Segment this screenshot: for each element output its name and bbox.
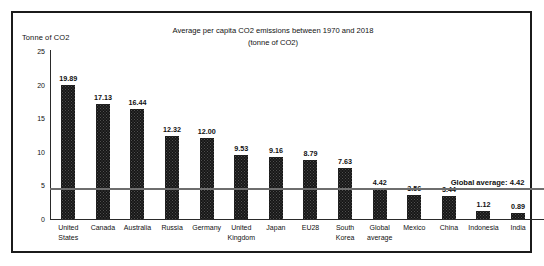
x-axis-category-label: EU28 <box>293 223 327 233</box>
y-axis-tick-label: 15 <box>31 115 45 122</box>
y-axis-tick-label: 25 <box>31 48 45 55</box>
chart-title-line-1: Average per capita CO2 emissions between… <box>123 25 423 37</box>
chart-title: Average per capita CO2 emissions between… <box>123 25 423 48</box>
x-axis-category-label: South Korea <box>328 223 362 242</box>
x-axis-category-label: China <box>432 223 466 233</box>
y-axis-title: Tonne of CO2 <box>22 33 69 42</box>
global-average-label: Global average: 4.42 <box>451 178 525 187</box>
bar-group[interactable]: 7.63South Korea <box>328 51 363 219</box>
bar-group[interactable]: 9.16Japan <box>259 51 294 219</box>
y-axis-tick-label: 10 <box>31 148 45 155</box>
global-average-line <box>50 188 544 190</box>
bar[interactable] <box>511 213 525 219</box>
bar-value-label: 16.44 <box>128 98 146 107</box>
bar-value-label: 1.12 <box>476 200 490 209</box>
bar-value-label: 12.00 <box>198 127 216 136</box>
x-axis-category-label: Global average <box>363 223 397 242</box>
bar-group[interactable]: 9.53United Kingdom <box>224 51 259 219</box>
bars-layer: 19.89United States17.13Canada16.44Austra… <box>51 51 526 219</box>
y-axis-tick-label: 20 <box>31 81 45 88</box>
bar-group[interactable]: 17.13Canada <box>86 51 121 219</box>
bar[interactable] <box>234 155 248 219</box>
bar[interactable] <box>407 195 421 219</box>
bar[interactable] <box>61 85 75 219</box>
bar-group[interactable]: 16.44Australia <box>120 51 155 219</box>
bar-group[interactable]: 12.00Germany <box>189 51 224 219</box>
bar-value-label: 4.42 <box>373 178 387 187</box>
bar-value-label: 17.13 <box>94 93 112 102</box>
bar-value-label: 9.53 <box>234 144 248 153</box>
x-axis-category-label: Russia <box>155 223 189 233</box>
x-axis-category-label: United Kingdom <box>224 223 258 242</box>
bar-group[interactable]: 3.56Mexico <box>397 51 432 219</box>
x-axis-category-label: Indonesia <box>466 223 500 233</box>
x-axis-category-label: Canada <box>86 223 120 233</box>
chart-title-line-2: (tonne of CO2) <box>123 37 423 49</box>
bar-group[interactable]: 0.89India <box>501 51 536 219</box>
bar[interactable] <box>200 138 214 219</box>
bar[interactable] <box>442 196 456 219</box>
x-axis-line <box>50 219 544 220</box>
bar-value-label: 8.79 <box>303 149 317 158</box>
bar-group[interactable]: 1.12Indonesia <box>466 51 501 219</box>
y-axis-tick-label: 0 <box>31 216 45 223</box>
plot-area: 0510152025 19.89United States17.13Canada… <box>31 51 526 219</box>
bar-group[interactable]: 19.89United States <box>51 51 86 219</box>
bar-value-label: 19.89 <box>59 74 77 83</box>
bar[interactable] <box>476 211 490 219</box>
chart-container: Tonne of CO2 Average per capita CO2 emis… <box>11 11 532 253</box>
bar-group[interactable]: 3.44China <box>432 51 467 219</box>
bar[interactable] <box>373 189 387 219</box>
bar[interactable] <box>130 109 144 219</box>
bar-group[interactable]: 8.79EU28 <box>293 51 328 219</box>
bar[interactable] <box>96 104 110 219</box>
bar[interactable] <box>165 136 179 219</box>
bar[interactable] <box>338 168 352 219</box>
bar-value-label: 7.63 <box>338 157 352 166</box>
x-axis-category-label: Japan <box>259 223 293 233</box>
bar-value-label: 12.32 <box>163 125 181 134</box>
bar-value-label: 9.16 <box>269 146 283 155</box>
y-axis-tick-label: 5 <box>31 182 45 189</box>
bar-group[interactable]: 12.32Russia <box>155 51 190 219</box>
bar-value-label: 0.89 <box>511 202 525 211</box>
x-axis-category-label: United States <box>51 223 85 242</box>
bar-group[interactable]: 4.42Global average <box>362 51 397 219</box>
x-axis-category-label: Mexico <box>397 223 431 233</box>
x-axis-category-label: Australia <box>120 223 154 233</box>
x-axis-category-label: Germany <box>190 223 224 233</box>
x-axis-category-label: India <box>501 223 535 233</box>
